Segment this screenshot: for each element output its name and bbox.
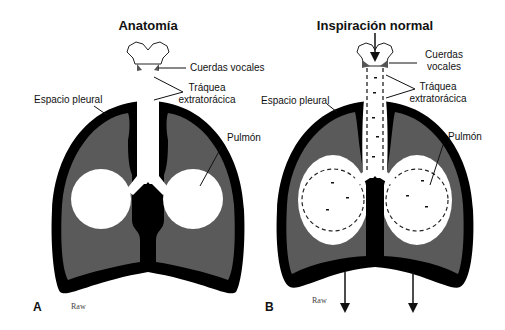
pleural-leader-b	[327, 104, 337, 112]
trachea-leader-1-b	[386, 75, 415, 89]
panel-b: Inspiración normal Cuerdas vocales Tráqu…	[261, 18, 482, 314]
panel-a: Anatomía Cuerdas vocales Tráquea extrato…	[33, 18, 264, 314]
vocal-cords-label-b-line2: vocales	[427, 61, 461, 72]
diaphragm-arrow-right-head	[408, 303, 418, 313]
mediastinum-b	[366, 176, 384, 256]
trachea-label-b-line1: Tráquea	[420, 81, 457, 92]
vocal-cords-label-b-line1: Cuerdas	[425, 49, 463, 60]
raw-label-b: Raw	[312, 296, 327, 305]
pleural-space-label-b: Espacio pleural	[261, 95, 329, 106]
trachea-label-a-line1: Tráquea	[189, 82, 226, 93]
larynx-a	[127, 42, 169, 64]
vocal-cords-label-a: Cuerdas vocales	[190, 62, 264, 73]
pleural-leader-a	[94, 106, 107, 115]
trachea-label-b-line2: extratorácica	[409, 93, 467, 104]
panel-b-title: Inspiración normal	[317, 18, 433, 33]
panel-a-title: Anatomía	[118, 18, 178, 33]
lung-label-b: Pulmón	[448, 131, 482, 142]
left-alveolus-b	[298, 155, 368, 245]
raw-label-a: Raw	[71, 302, 86, 311]
diaphragm-arrow-left-head	[340, 303, 350, 313]
trachea-label-a-line2: extratorácica	[178, 94, 236, 105]
pleural-space-label-a: Espacio pleural	[34, 94, 102, 105]
right-alveolus-a	[163, 169, 223, 229]
panel-b-letter: B	[265, 300, 274, 314]
left-alveolus-a	[71, 169, 131, 229]
mediastinum-a	[140, 182, 156, 262]
right-alveolus-b	[382, 155, 452, 245]
panel-a-letter: A	[33, 300, 42, 314]
respiratory-diagram: Anatomía Cuerdas vocales Tráquea extrato…	[0, 0, 505, 330]
lung-label-a: Pulmón	[227, 132, 261, 143]
